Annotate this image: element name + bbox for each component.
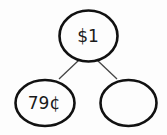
part-node-left: 79¢: [16, 80, 75, 126]
connector-left: [59, 60, 79, 79]
whole-node: $1: [60, 11, 118, 62]
part-node-right[interactable]: [101, 80, 157, 126]
part-left-value: 79¢: [28, 93, 60, 113]
whole-value: $1: [77, 26, 99, 46]
number-bond-diagram: $1 79¢: [0, 0, 167, 135]
connector-right: [97, 60, 117, 79]
